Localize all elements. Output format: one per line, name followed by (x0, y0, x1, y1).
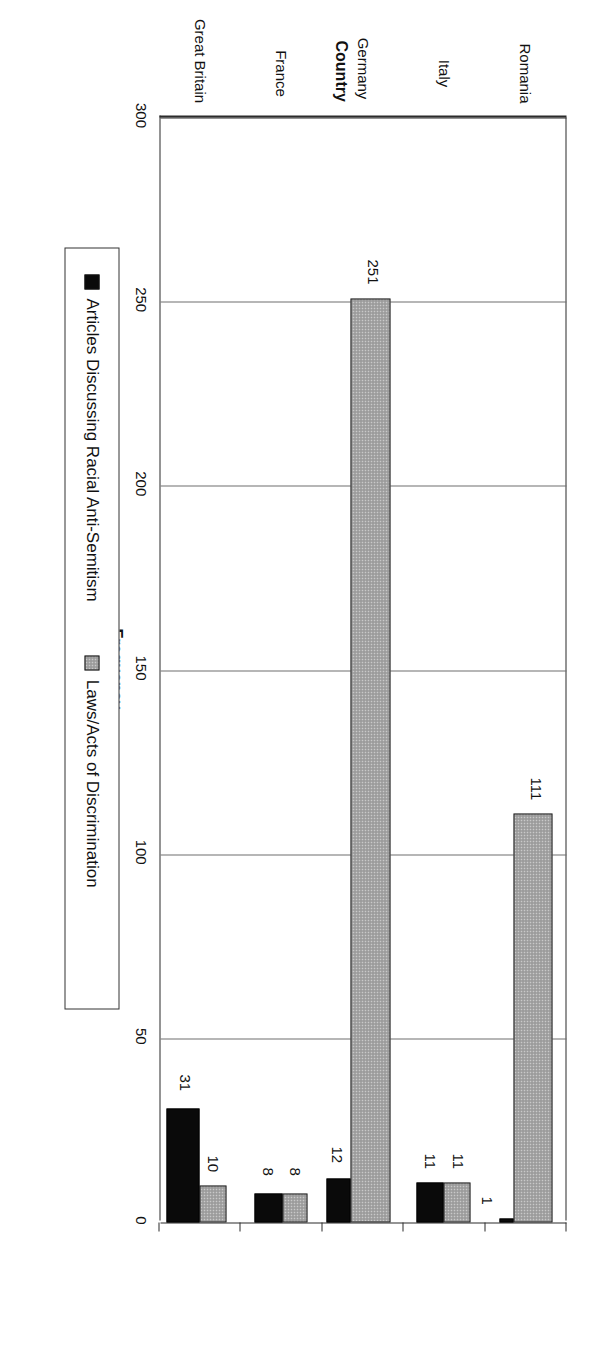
bar-label-germany-articles: 12 (328, 1146, 345, 1163)
legend-swatch-laws-icon (84, 655, 99, 670)
category-tick-3 (321, 1222, 322, 1231)
category-label-romania: Romania (516, 33, 533, 113)
legend-item-articles: Articles Discussing Racial Anti-Semitism (82, 274, 102, 601)
gridline-300b (160, 117, 566, 118)
bar-romania-articles (499, 1218, 513, 1222)
category-label-germany: Germany (354, 23, 371, 113)
bar-great-britain-laws (199, 1185, 226, 1222)
category-tick-4 (239, 1222, 240, 1231)
category-axis-title: Country (331, 40, 349, 101)
bar-label-italy-articles: 11 (421, 1153, 438, 1169)
value-tick-250: 250 (132, 269, 149, 329)
bar-great-britain-articles (166, 1108, 199, 1222)
bar-france-articles (254, 1193, 282, 1223)
bar-italy-articles (416, 1182, 443, 1223)
bar-label-romania-laws: 111 (527, 777, 544, 800)
legend: Articles Discussing Racial Anti-Semitism… (64, 247, 119, 1009)
plot-area: 111 1 11 11 251 12 8 8 10 31 (159, 115, 566, 1220)
legend-label-articles: Articles Discussing Racial Anti-Semitism (82, 298, 102, 601)
category-label-great-britain: Great Britain (191, 8, 208, 113)
bar-italy-laws (443, 1182, 470, 1223)
value-tick-300: 300 (132, 85, 149, 145)
legend-label-laws: Laws/Acts of Discrimination (82, 679, 102, 887)
value-tick-150: 150 (132, 638, 149, 698)
category-tick-1 (484, 1222, 485, 1231)
value-tick-0: 0 (132, 1190, 149, 1250)
chart-figure: 111 1 11 11 251 12 8 8 10 31 300 250 200… (0, 0, 611, 1355)
value-tick-100: 100 (132, 822, 149, 882)
bar-france-laws (282, 1193, 307, 1223)
bar-label-italy-laws: 11 (449, 1153, 466, 1169)
category-tick-0 (565, 1222, 566, 1231)
gridline-300 (565, 117, 566, 1220)
value-tick-200: 200 (132, 453, 149, 513)
bar-label-romania-articles: 1 (478, 1196, 495, 1204)
legend-swatch-articles-icon (84, 274, 99, 289)
bar-label-great-britain-laws: 10 (204, 1155, 221, 1172)
category-tick-5 (158, 1222, 159, 1231)
bar-label-great-britain-articles: 31 (176, 1074, 193, 1091)
value-tick-50: 50 (132, 1006, 149, 1066)
category-label-italy: Italy (435, 33, 452, 113)
legend-item-laws: Laws/Acts of Discrimination (82, 655, 102, 887)
category-tick-2 (402, 1222, 403, 1231)
bar-label-france-laws: 8 (286, 1167, 303, 1175)
bar-label-france-articles: 8 (259, 1167, 276, 1175)
bar-germany-articles (326, 1178, 350, 1222)
bar-germany-laws (350, 298, 390, 1223)
category-label-france: France (272, 33, 289, 113)
bar-label-germany-laws: 251 (364, 259, 381, 284)
bar-romania-laws (513, 813, 552, 1222)
